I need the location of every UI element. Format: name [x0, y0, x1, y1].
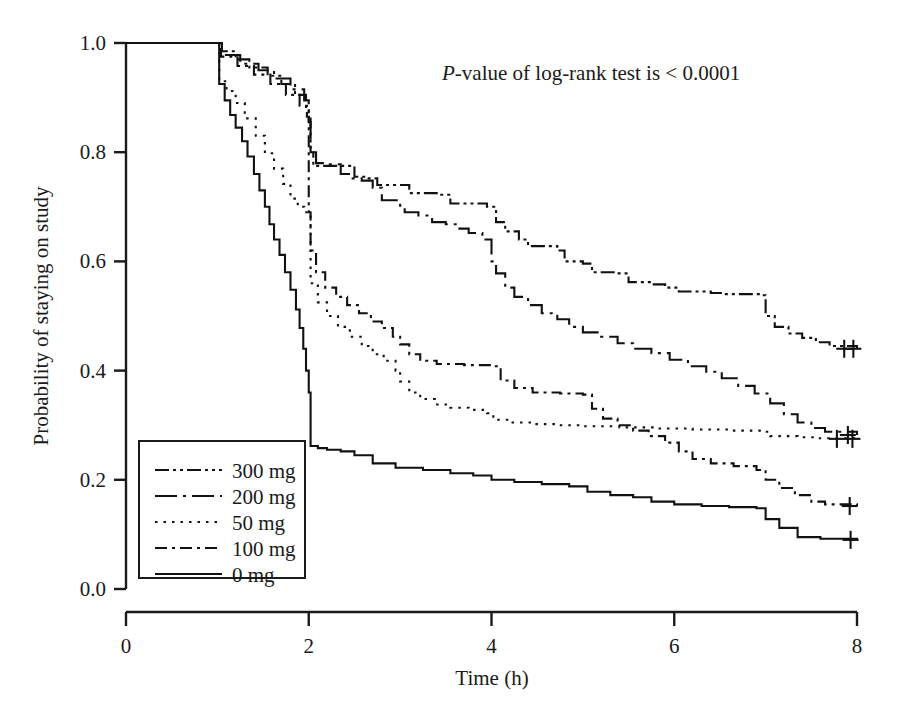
x-tick-group: [126, 612, 857, 626]
y-tick-label: 0.2: [80, 468, 106, 492]
survival-curve-100-mg: [126, 43, 857, 506]
y-tick-label: 1.0: [80, 31, 106, 55]
y-tick-label: 0.0: [80, 577, 106, 601]
legend-label: 100 mg: [232, 537, 296, 561]
y-tick-group: [114, 43, 126, 589]
x-tick-label-group: 02468: [121, 634, 863, 658]
legend-item-100-mg[interactable]: 100 mg: [155, 537, 296, 561]
censor-mark-group: [829, 340, 861, 549]
censor-mark: [845, 340, 861, 358]
y-tick-label: 0.8: [80, 140, 106, 164]
legend-item-200-mg[interactable]: 200 mg: [155, 485, 296, 509]
survival-curve-300-mg: [126, 43, 857, 349]
x-axis-title: Time (h): [455, 666, 528, 690]
kaplan-meier-chart: 0.00.20.40.60.81.0 Probability of stayin…: [0, 0, 911, 710]
x-tick-label: 8: [852, 634, 863, 658]
x-tick-label: 2: [304, 634, 315, 658]
figure-page: 0.00.20.40.60.81.0 Probability of stayin…: [0, 0, 911, 710]
x-tick-label: 0: [121, 634, 132, 658]
legend-item-50-mg[interactable]: 50 mg: [155, 511, 286, 535]
legend-label: 50 mg: [232, 511, 286, 535]
legend-item-0-mg[interactable]: 0 mg: [155, 563, 275, 587]
y-tick-label-group: 0.00.20.40.60.81.0: [80, 31, 107, 601]
y-tick-label: 0.4: [80, 359, 107, 383]
legend-item-300-mg[interactable]: 300 mg: [155, 459, 296, 483]
p-value-annotation: P-value of log-rank test is < 0.0001: [441, 61, 740, 85]
legend-label: 0 mg: [232, 563, 275, 587]
survival-curve-200-mg: [126, 43, 857, 435]
annotation-italic-p: P: [441, 61, 455, 85]
legend-entry-group[interactable]: 300 mg200 mg50 mg100 mg0 mg: [155, 459, 296, 587]
y-axis-title: Probability of staying on study: [29, 186, 53, 445]
x-tick-label: 4: [486, 634, 497, 658]
y-tick-label: 0.6: [80, 249, 106, 273]
legend[interactable]: 300 mg200 mg50 mg100 mg0 mg: [139, 441, 305, 587]
censor-mark: [843, 531, 859, 549]
x-axis: 02468 Time (h): [121, 612, 863, 690]
censor-mark: [842, 497, 858, 515]
legend-label: 300 mg: [232, 459, 296, 483]
legend-label: 200 mg: [232, 485, 296, 509]
x-tick-label: 6: [669, 634, 680, 658]
y-axis: 0.00.20.40.60.81.0 Probability of stayin…: [29, 31, 126, 601]
annotation-rest: -value of log-rank test is < 0.0001: [455, 61, 740, 85]
